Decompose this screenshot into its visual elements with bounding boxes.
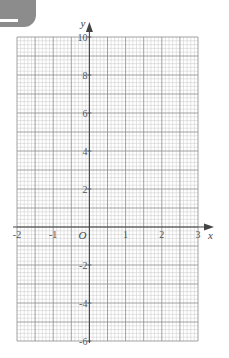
y-tick-label: 8 — [82, 70, 87, 81]
y-tick-label: 6 — [82, 108, 87, 119]
origin-label: O — [78, 229, 86, 241]
x-tick-label: 3 — [196, 229, 201, 240]
y-axis-arrow-icon — [86, 22, 93, 32]
tick-labels: -2-1123108642-2-4-6Oxy — [13, 17, 213, 347]
x-tick-label: -1 — [49, 229, 57, 240]
y-tick-label: -4 — [79, 298, 87, 309]
x-axis-label: x — [207, 229, 213, 241]
y-tick-label: 10 — [77, 32, 87, 43]
y-tick-label: -2 — [79, 260, 87, 271]
x-tick-label: 1 — [123, 229, 128, 240]
axes — [13, 22, 214, 343]
x-tick-label: -2 — [13, 229, 21, 240]
y-tick-label: -6 — [79, 336, 87, 347]
graph-paper: -2-1123108642-2-4-6Oxy — [0, 0, 229, 358]
x-tick-label: 2 — [159, 229, 164, 240]
y-tick-label: 4 — [82, 146, 87, 157]
y-tick-label: 2 — [82, 184, 87, 195]
y-axis-label: y — [79, 17, 85, 29]
